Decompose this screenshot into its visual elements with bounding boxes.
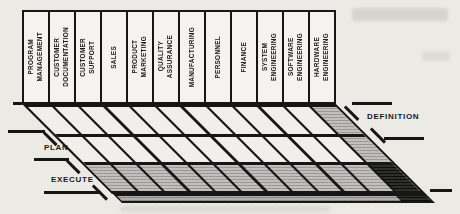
plan-top-leader-line [8, 130, 45, 133]
column-header-customer-support: CUSTOMER SUPPORT [74, 10, 102, 104]
phase-responsibility-matrix-diagram: PROGRAM MANAGEMENTCUSTOMER DOCUMENTATION… [0, 0, 460, 214]
column-header-program-management: PROGRAM MANAGEMENT [22, 10, 50, 104]
column-header-label: PROGRAM MANAGEMENT [27, 32, 44, 82]
scan-noise-blob [422, 52, 450, 61]
column-header-label: SYSTEM ENGINEERING [261, 33, 278, 81]
column-header-hardware-engineering: HARDWARE ENGINEERING [308, 10, 336, 104]
execute-bottom-leader-line [44, 191, 101, 194]
definition-top-leader-line [352, 102, 392, 105]
plan-bottom-leader-line [34, 158, 69, 161]
column-header-product-marketing: PRODUCT MARKETING [126, 10, 154, 104]
column-header-finance: FINANCE [230, 10, 258, 104]
column-header-label: HARDWARE ENGINEERING [313, 33, 330, 81]
column-header-label: QUALITY ASSURANCE [157, 35, 174, 78]
column-header-label: SOFTWARE ENGINEERING [287, 33, 304, 81]
definition-bottom-leader-line [384, 137, 424, 140]
column-header-row: PROGRAM MANAGEMENTCUSTOMER DOCUMENTATION… [22, 10, 336, 104]
column-header-software-engineering: SOFTWARE ENGINEERING [282, 10, 310, 104]
column-header-label: CUSTOMER DOCUMENTATION [53, 27, 70, 87]
column-header-customer-documentation: CUSTOMER DOCUMENTATION [48, 10, 76, 104]
column-header-label: MANUFACTURING [188, 27, 197, 87]
column-header-label: CUSTOMER SUPPORT [79, 38, 96, 77]
column-header-label: SALES [110, 46, 119, 69]
phase-label-execute: EXECUTE [51, 175, 94, 184]
column-header-personnel: PERSONNEL [204, 10, 232, 104]
phase-label-plan: PLAN [44, 143, 69, 152]
phase-label-definition: DEFINITION [367, 112, 419, 121]
edge-strip-dark-end [396, 196, 431, 201]
plan-bottom-leader-diagonal [66, 159, 81, 174]
bottom-right-tick-line [430, 189, 452, 192]
column-header-system-engineering: SYSTEM ENGINEERING [256, 10, 284, 104]
column-header-quality-assurance: QUALITY ASSURANCE [152, 10, 180, 104]
scan-noise-blob [352, 8, 448, 21]
column-header-sales: SALES [100, 10, 128, 104]
column-header-label: PERSONNEL [214, 36, 223, 78]
column-header-manufacturing: MANUFACTURING [178, 10, 206, 104]
matrix-bottom-edge-strip [113, 194, 435, 203]
scan-noise-blob [120, 206, 330, 212]
column-header-label: FINANCE [240, 42, 249, 73]
column-header-label: PRODUCT MARKETING [131, 36, 148, 77]
